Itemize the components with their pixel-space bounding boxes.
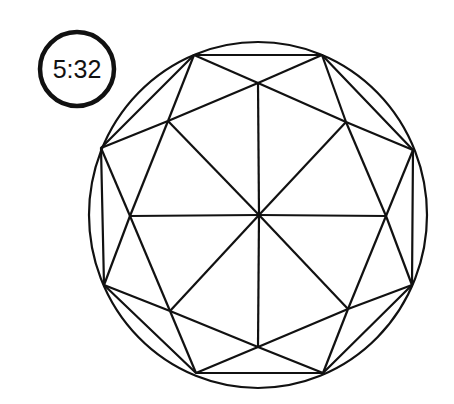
- spoke: [259, 215, 386, 216]
- figure-label: 5:32: [53, 55, 102, 83]
- spoke: [130, 215, 259, 216]
- polyhedron: [89, 42, 427, 388]
- spoke: [258, 215, 259, 347]
- figure-label-badge: 5:32: [40, 32, 114, 106]
- spoke: [259, 122, 346, 215]
- spoke: [258, 83, 259, 215]
- spoke: [259, 215, 348, 309]
- spoke: [168, 121, 259, 215]
- polyhedron-diagram: 5:32: [0, 0, 454, 404]
- spoke: [170, 215, 259, 311]
